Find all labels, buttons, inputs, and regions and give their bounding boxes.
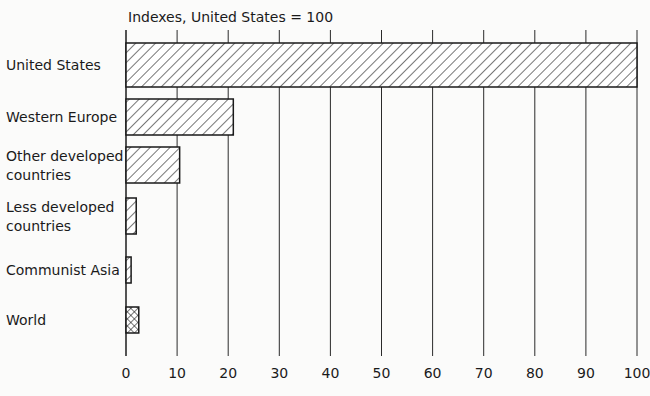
category-label: Less developed: [6, 199, 114, 215]
x-tick-label: 10: [168, 365, 186, 381]
x-axis-ticks: 0102030405060708090100: [122, 365, 650, 381]
bar-chart: Indexes, United States = 100 United Stat…: [0, 0, 650, 396]
bar: [126, 257, 131, 283]
x-tick-label: 80: [526, 365, 544, 381]
category-label: United States: [6, 57, 101, 73]
x-tick-label: 90: [577, 365, 595, 381]
x-tick-label: 50: [373, 365, 391, 381]
bar: [126, 307, 139, 333]
category-label: countries: [6, 167, 71, 183]
x-tick-label: 20: [219, 365, 237, 381]
bar: [126, 99, 233, 135]
x-tick-label: 0: [122, 365, 131, 381]
bar: [126, 198, 136, 234]
category-labels: United StatesWestern EuropeOther develop…: [6, 57, 123, 328]
x-tick-label: 30: [270, 365, 288, 381]
category-label: World: [6, 312, 46, 328]
bar: [126, 43, 637, 87]
x-tick-label: 40: [321, 365, 339, 381]
category-label: Western Europe: [6, 109, 117, 125]
x-tick-label: 70: [475, 365, 493, 381]
category-label: countries: [6, 218, 71, 234]
bar: [126, 147, 180, 183]
category-label: Communist Asia: [6, 262, 120, 278]
category-label: Other developed: [6, 148, 123, 164]
x-tick-label: 60: [424, 365, 442, 381]
chart-title: Indexes, United States = 100: [128, 9, 333, 25]
x-tick-label: 100: [624, 365, 650, 381]
